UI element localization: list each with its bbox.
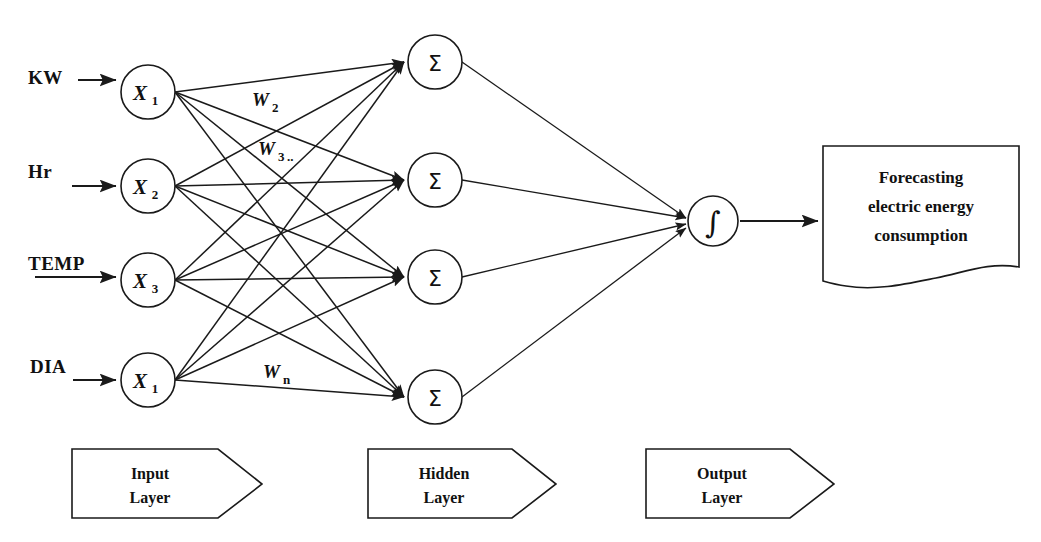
input-layer-banner[interactable]: Input Layer [72, 449, 262, 518]
input-node-x1-subscript: 1 [152, 93, 159, 108]
hidden-node-h2[interactable]: Σ [408, 153, 462, 207]
edge-x1-h1 [175, 62, 404, 92]
document-line-1: Forecasting [879, 168, 964, 187]
output-node-o1[interactable]: ∫ [688, 196, 738, 246]
weight-w2-subscript: 2 [272, 100, 279, 115]
input-node-x1-symbol: X [132, 81, 148, 105]
edge-h3-o1 [462, 224, 686, 277]
input-node-x4-subscript: 1 [152, 381, 159, 396]
neural-network-diagram: X 1 X 2 X 3 X 1 KW Hr TEMP D [0, 0, 1041, 542]
input-node-x2[interactable]: X 2 [121, 159, 175, 213]
hidden-node-h2-symbol: Σ [428, 169, 442, 194]
input-variable-labels: KW Hr TEMP DIA [28, 67, 85, 377]
hidden-nodes-group: Σ Σ Σ Σ [408, 35, 462, 424]
weight-wn-symbol: W [263, 361, 281, 382]
input-node-x3[interactable]: X 3 [121, 253, 175, 307]
hidden-node-h4-symbol: Σ [428, 386, 442, 411]
weight-label-w2: W 2 [252, 89, 279, 115]
banner-shape [72, 449, 262, 518]
input-node-x2-subscript: 2 [152, 187, 159, 202]
input-layer-banner-line1: Input [131, 465, 170, 483]
input-feed-arrows [35, 80, 116, 380]
hidden-layer-banner-line2: Layer [424, 489, 465, 507]
banner-shape [646, 449, 834, 518]
node-circle [121, 353, 175, 407]
input-label-kw: KW [28, 67, 63, 88]
output-layer-banner-line2: Layer [702, 489, 743, 507]
node-circle [121, 159, 175, 213]
output-node-o1-symbol: ∫ [705, 205, 721, 240]
input-layer-banner-line2: Layer [130, 489, 171, 507]
input-node-x4[interactable]: X 1 [121, 353, 175, 407]
input-node-x3-symbol: X [132, 269, 148, 293]
hidden-node-h1[interactable]: Σ [408, 35, 462, 89]
edge-x4-h1 [175, 62, 404, 380]
edge-x1-h4 [175, 92, 404, 397]
edge-h2-o1 [462, 180, 686, 218]
node-circle [121, 65, 175, 119]
input-node-x1[interactable]: X 1 [121, 65, 175, 119]
weight-w3-trailing: .. [287, 149, 294, 164]
input-nodes-group: X 1 X 2 X 3 X 1 [121, 65, 175, 407]
weight-w3-symbol: W [258, 138, 276, 159]
hidden-node-h3[interactable]: Σ [408, 250, 462, 304]
banner-shape [368, 449, 556, 518]
input-label-hr: Hr [28, 161, 52, 182]
edge-x3-h1 [175, 62, 404, 280]
hidden-node-h1-symbol: Σ [428, 51, 442, 76]
weight-label-w3: W 3 .. [258, 138, 294, 164]
diagram-canvas: X 1 X 2 X 3 X 1 KW Hr TEMP D [0, 0, 1041, 542]
output-layer-banner[interactable]: Output Layer [646, 449, 834, 518]
input-label-dia: DIA [30, 356, 66, 377]
input-node-x3-subscript: 3 [152, 281, 159, 296]
input-label-temp: TEMP [28, 253, 85, 274]
weight-w3-subscript: 3 [278, 149, 285, 164]
node-circle [121, 253, 175, 307]
document-line-2: electric energy [868, 197, 975, 216]
hidden-layer-banner-line1: Hidden [419, 465, 470, 482]
weight-label-wn: W n [263, 361, 291, 387]
hidden-node-h4[interactable]: Σ [408, 370, 462, 424]
weight-w2-symbol: W [252, 89, 270, 110]
weight-wn-subscript: n [283, 372, 291, 387]
input-node-x4-symbol: X [132, 369, 148, 393]
edge-h1-o1 [462, 62, 686, 218]
input-to-hidden-edges [175, 62, 404, 397]
edge-x2-h3 [175, 186, 404, 277]
hidden-layer-banner[interactable]: Hidden Layer [368, 449, 556, 518]
result-document[interactable]: Forecasting electric energy consumption [823, 146, 1019, 288]
hidden-to-output-edges [462, 62, 686, 397]
document-line-3: consumption [874, 226, 968, 245]
input-node-x2-symbol: X [132, 175, 148, 199]
edge-h4-o1 [462, 228, 686, 397]
edge-x3-h2 [175, 180, 404, 280]
output-layer-banner-line1: Output [697, 465, 747, 483]
hidden-node-h3-symbol: Σ [428, 266, 442, 291]
